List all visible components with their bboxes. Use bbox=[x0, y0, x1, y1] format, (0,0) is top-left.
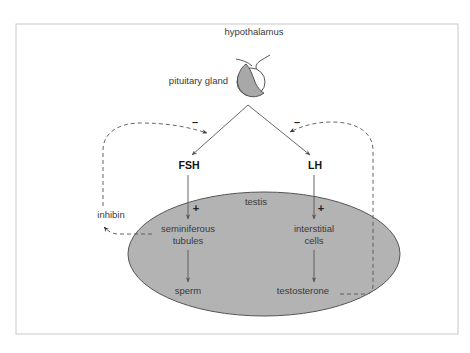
lh-plus-sign: + bbox=[318, 202, 324, 214]
inhibin-label: inhibin bbox=[97, 209, 124, 220]
seminiferous-label-line1: seminiferous bbox=[161, 223, 215, 234]
testis-shape bbox=[128, 192, 400, 316]
pituitary-label: pituitary gland bbox=[169, 75, 228, 86]
testosterone-minus-sign: – bbox=[294, 116, 300, 128]
lh-label: LH bbox=[308, 159, 322, 171]
diagram-canvas: hypothalamus pituitary gland FSH LH test… bbox=[0, 0, 470, 353]
seminiferous-label-line2: tubules bbox=[173, 235, 204, 246]
interstitial-label-line2: cells bbox=[304, 235, 323, 246]
hypothalamus-label: hypothalamus bbox=[224, 26, 283, 37]
testis-label: testis bbox=[245, 196, 267, 207]
sperm-label: sperm bbox=[175, 285, 201, 296]
testosterone-label: testosterone bbox=[277, 285, 329, 296]
fsh-plus-sign: + bbox=[193, 202, 199, 214]
fsh-label: FSH bbox=[179, 159, 200, 171]
inhibin-minus-sign: – bbox=[192, 116, 198, 128]
interstitial-label-line1: interstitial bbox=[294, 223, 334, 234]
